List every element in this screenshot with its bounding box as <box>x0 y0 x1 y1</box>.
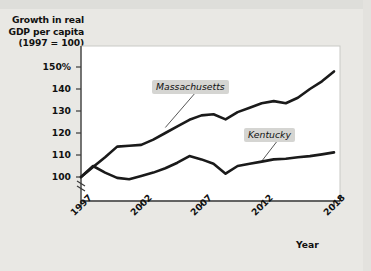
y-tick-label: 140 <box>35 83 71 94</box>
chart-figure: Growth in real GDP per capita (1997 = 10… <box>0 0 371 271</box>
series-callout-kentucky-label: Kentucky <box>248 129 291 140</box>
y-tick-label: 150% <box>35 61 71 72</box>
y-tick-label: 130 <box>35 105 71 116</box>
series-callout-massachusetts: Massachusetts <box>152 80 229 94</box>
y-tick-marks <box>76 67 81 177</box>
y-tick-label: 110 <box>35 149 71 160</box>
series-callout-kentucky: Kentucky <box>244 128 295 142</box>
x-axis-title: Year <box>296 239 319 250</box>
y-tick-label: 120 <box>35 127 71 138</box>
series-callout-massachusetts-label: Massachusetts <box>156 81 225 92</box>
y-tick-label: 100 <box>35 171 71 182</box>
